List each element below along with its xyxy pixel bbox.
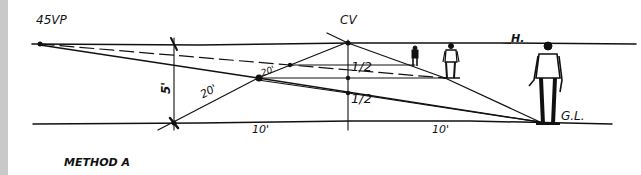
half-upper-label: 1/2 [351,60,372,73]
ground-point [172,121,177,126]
diagonal-20ft [158,42,348,130]
cv-low-dot [346,91,350,95]
vanishing-point-label: 45VP [36,14,67,26]
perspective-diagram [0,0,641,175]
dashed-point [288,63,292,67]
half-lower-label: 1/2 [351,92,372,105]
vp-point [38,42,43,47]
ground-line [33,121,612,124]
near-figure [529,42,562,124]
cv-mid-dot [346,76,350,80]
height-5ft-label: 5' [160,82,172,94]
far-figure [412,46,418,66]
center-of-vision-label: CV [340,14,357,26]
cv-point [346,41,351,46]
lower-converging-line [258,80,540,122]
method-title: METHOD A [64,157,130,168]
distance-10ft-right-label: 10' [432,124,449,135]
ground-line-label: G.L. [561,110,585,122]
mid-figure [443,44,460,79]
distance-10ft-left-label: 10' [252,124,269,135]
horizon-label: H. [511,33,524,44]
vp-dashed-line [40,44,445,78]
